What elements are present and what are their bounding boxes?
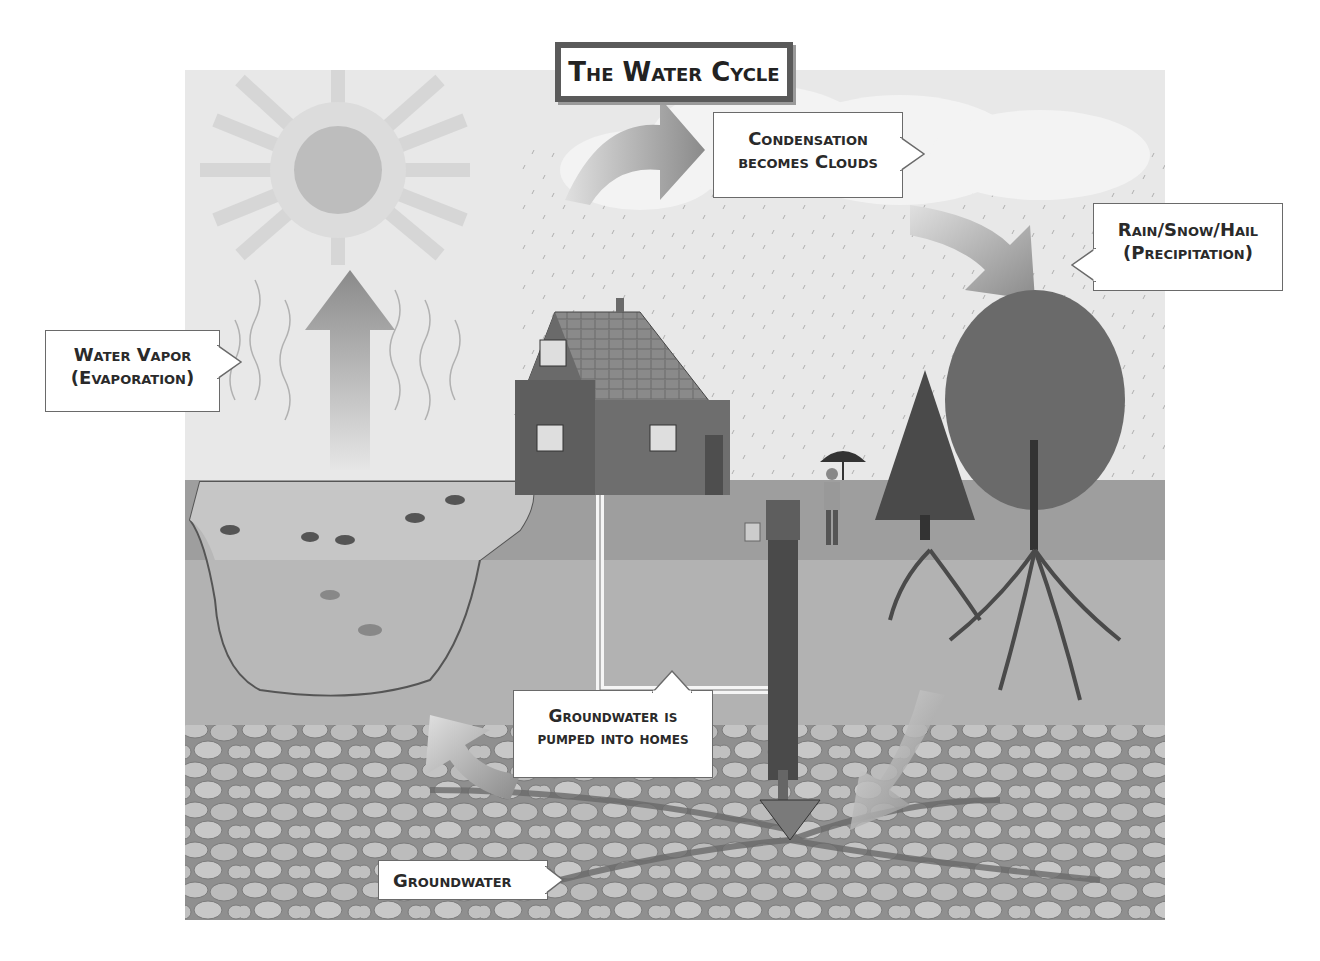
- bucket: [745, 523, 760, 541]
- well: [768, 500, 798, 780]
- label-condensation-line2: becomes Clouds: [714, 150, 902, 173]
- label-evaporation: Water Vapor (Evaporation): [45, 330, 220, 412]
- diagram-title: The Water Cycle: [555, 42, 793, 102]
- label-groundwater: Groundwater: [378, 860, 548, 900]
- label-precipitation: Rain/Snow/Hail (Precipitation): [1093, 203, 1283, 291]
- callout-pointer: [217, 345, 243, 379]
- callout-pointer: [545, 866, 565, 894]
- label-pumped-line1: Groundwater is: [514, 705, 712, 727]
- callout-pointer: [1070, 248, 1096, 282]
- callout-pointer: [900, 137, 926, 171]
- water-cycle-illustration: [0, 0, 1320, 961]
- label-evaporation-line1: Water Vapor: [46, 343, 219, 366]
- label-condensation-line1: Condensation: [714, 127, 902, 150]
- label-groundwater-line1: Groundwater: [393, 869, 547, 892]
- label-condensation: Condensation becomes Clouds: [713, 112, 903, 198]
- label-pumped-line2: pumped into homes: [514, 727, 712, 749]
- label-pumped-into-homes: Groundwater is pumped into homes: [513, 690, 713, 778]
- callout-pointer: [652, 669, 692, 693]
- label-precipitation-line1: Rain/Snow/Hail: [1094, 218, 1282, 241]
- label-precipitation-line2: (Precipitation): [1094, 241, 1282, 264]
- label-evaporation-line2: (Evaporation): [46, 366, 219, 389]
